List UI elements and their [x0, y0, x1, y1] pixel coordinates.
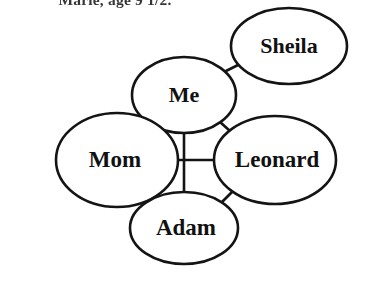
diagram-page: Marie, age 9 1/2. Sheila Me Mom Leo	[0, 0, 378, 288]
sociogram-svg: Sheila Me Mom Leonard Adam	[0, 0, 378, 288]
node-mom[interactable]: Mom	[56, 113, 178, 207]
node-leonard[interactable]: Leonard	[214, 116, 336, 204]
node-adam[interactable]: Adam	[130, 192, 238, 264]
node-sheila[interactable]: Sheila	[231, 8, 347, 84]
node-adam-label: Adam	[156, 215, 216, 240]
node-leonard-label: Leonard	[235, 147, 320, 172]
node-me-label: Me	[169, 82, 200, 107]
node-mom-label: Mom	[89, 147, 141, 172]
node-sheila-label: Sheila	[260, 33, 317, 58]
